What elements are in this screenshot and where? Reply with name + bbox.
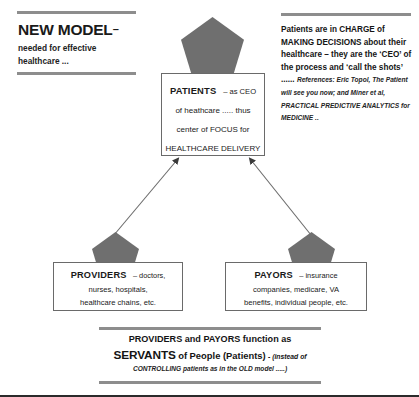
payors-heading-row: PAYORS – insurance	[226, 269, 366, 283]
summary-line-2: SERVANTS of People (Patients) - (instead…	[99, 348, 321, 362]
payors-box: PAYORS – insurance companies, medicare, …	[225, 262, 367, 311]
summary-of-people: of People (Patients)	[178, 350, 266, 361]
note-rule-top	[281, 13, 411, 16]
summary-rule-bottom	[99, 381, 321, 384]
headline-subtitle: needed for effective healthcare ...	[18, 42, 140, 67]
payors-line-2: companies, medicare, VA	[226, 283, 366, 297]
page-title-dash: –	[113, 23, 119, 35]
summary-instead-of: - (instead of	[268, 353, 307, 360]
payors-label-tail: – insurance	[299, 271, 337, 280]
connector-providers-to-patients	[114, 160, 177, 235]
patients-line-3: center of FOCUS for	[162, 120, 264, 139]
headline-rule-top	[17, 11, 136, 14]
patients-box: PATIENTS – as CEO of heathcare ..... thu…	[161, 73, 265, 156]
patients-label-tail: – as CEO	[223, 87, 256, 96]
payors-line-3: benefits, individual people, etc.	[226, 296, 366, 310]
pentagon-patients-icon	[181, 17, 244, 77]
patients-line-2: of heathcare ..... thus	[162, 101, 264, 120]
page-title-text: NEW MODEL	[18, 21, 113, 38]
note-reference-text: References: Eric Topol, The Patient will…	[281, 76, 410, 121]
summary-line-3: CONTROLLING patients as in the OLD model…	[99, 365, 321, 372]
summary-line-1: PROVIDERS and PAYORS function as	[99, 334, 321, 344]
providers-heading-row: PROVIDERS – doctors,	[54, 269, 182, 283]
patients-label: PATIENTS	[170, 85, 217, 96]
slide-canvas: NEW MODEL– needed for effective healthca…	[0, 0, 419, 397]
providers-line-3: healthcare chains, etc.	[54, 296, 182, 310]
page-title: NEW MODEL–	[18, 21, 119, 39]
patients-line-4: HEALTHCARE DELIVERY	[162, 139, 264, 158]
summary-rule-top	[99, 327, 321, 330]
providers-line-2: nurses, hospitals,	[54, 283, 182, 297]
patients-heading-row: PATIENTS – as CEO	[162, 81, 264, 101]
providers-label: PROVIDERS	[71, 270, 127, 280]
headline-rule-bottom	[17, 72, 136, 75]
payors-label: PAYORS	[254, 270, 292, 280]
connector-payors-to-patients	[251, 160, 311, 235]
summary-servants-word: SERVANTS	[113, 348, 175, 362]
note-text: Patients are in CHARGE of MAKING DECISIO…	[281, 24, 413, 125]
providers-box: PROVIDERS – doctors, nurses, hospitals, …	[53, 262, 183, 311]
providers-label-tail: – doctors,	[133, 271, 165, 280]
